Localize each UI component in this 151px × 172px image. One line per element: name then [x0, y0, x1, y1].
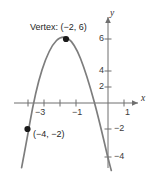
y-axis-tick-label-6: 6	[99, 34, 104, 43]
parabola-graph-figure: Vertex: (−2, 6) (−4, −2) 6 4 2 −2 −4 −3 …	[0, 0, 151, 172]
y-axis-tick-label-2: 2	[99, 82, 104, 91]
y-axis-tick-label-minus2: −2	[114, 124, 124, 133]
point-annotation-label: (−4, −2)	[33, 130, 65, 139]
x-axis-tick-label-minus1: −1	[72, 108, 82, 117]
y-axis-name-label: y	[110, 9, 114, 19]
parabola-curve	[22, 37, 112, 170]
x-axis-arrow-icon	[132, 100, 138, 106]
point-marker-minus4-minus2	[24, 126, 30, 132]
x-axis-name-label: x	[141, 94, 145, 104]
y-axis-tick-label-minus4: −4	[114, 152, 124, 161]
y-axis-tick-label-4: 4	[99, 66, 104, 75]
vertex-point-marker	[63, 36, 69, 42]
x-axis-tick-label-1: 1	[125, 108, 130, 117]
vertex-annotation-label: Vertex: (−2, 6)	[30, 23, 87, 32]
x-axis-tick-label-minus3: −3	[35, 108, 45, 117]
